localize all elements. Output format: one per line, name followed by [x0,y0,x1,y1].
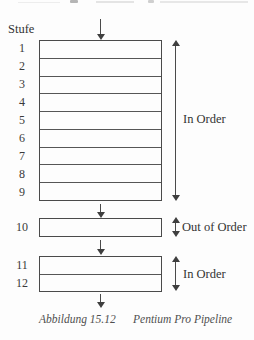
stage-number: 6 [6,129,38,147]
in-order-top-arrow-up-icon [172,40,180,46]
pipeline-box-in-order-bottom [39,256,162,292]
figure-caption-number: Abbildung 15.12 [39,313,116,325]
exit-arrow-head-icon [97,302,105,308]
pipeline-stage-row [40,257,161,274]
stage-number: 2 [6,58,38,76]
in-order-bottom-range-line [175,261,176,286]
stage-number-column: 1 2 3 4 5 6 7 8 9 [6,40,38,201]
pipeline-stage-row [40,182,161,200]
stage-number: 11 [6,256,38,274]
stage-number: 10 [6,218,38,237]
stage-column-header: Stufe [8,22,34,36]
pipeline-box-in-order-top [39,40,162,201]
in-order-bottom-arrow-down-icon [172,285,180,291]
text-fragment [148,0,154,3]
pipeline-stage-row [40,274,161,292]
text-fragment [18,2,60,3]
in-order-top-arrow-down-icon [172,195,180,201]
out-of-order-label: Out of Order [182,220,247,234]
out-of-order-arrow-down-icon [172,231,180,237]
pipeline-stage-row [40,93,161,111]
pipeline-stage-row [40,41,161,58]
pipeline-stage-row [40,111,161,129]
stage-number: 9 [6,183,38,201]
pipeline-stage-row [40,164,161,182]
stage-number: 5 [6,112,38,130]
stage-number: 12 [6,274,38,292]
figure-caption-title: Pentium Pro Pipeline [133,313,232,325]
text-fragment [70,0,78,3]
entry-arrow-line [100,19,101,35]
pipeline-stage-row [40,147,161,165]
pipeline-box-out-of-order [39,218,162,237]
pipeline-stage-row [40,129,161,147]
pipeline-stage-row [40,58,161,76]
in-order-top-range-line [175,45,176,196]
stage-number: 8 [6,165,38,183]
pipeline-figure: Stufe 1 2 3 4 5 6 7 8 9 In Order 10 Out [0,0,254,340]
in-order-bottom-label: In Order [183,267,226,281]
figure-caption: Abbildung 15.12 Pentium Pro Pipeline [0,313,254,329]
out-of-order-arrow-up-icon [172,217,180,223]
text-fragment [96,1,134,3]
flow-arrow-head-icon [97,249,105,255]
stage-number: 1 [6,40,38,58]
in-order-top-label: In Order [183,112,226,126]
pipeline-stage-row [40,76,161,94]
stage-number: 7 [6,147,38,165]
stage-number: 3 [6,76,38,94]
text-fragment [160,1,248,3]
in-order-bottom-arrow-up-icon [172,256,180,262]
stage-number: 4 [6,94,38,112]
